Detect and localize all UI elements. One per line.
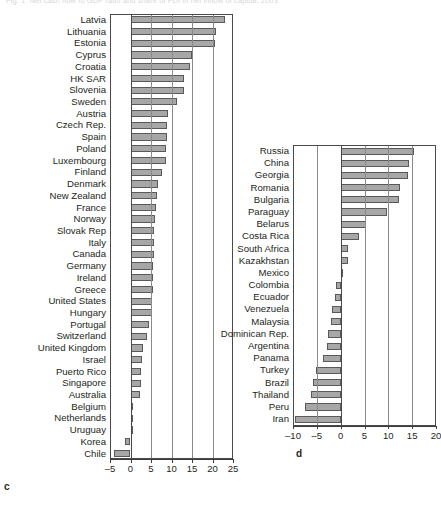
bar-track <box>110 14 233 26</box>
bar <box>305 403 340 410</box>
bar <box>131 321 149 328</box>
bar <box>336 282 340 289</box>
bar-row: Bulgaria <box>218 194 436 206</box>
bar-row: Panama <box>218 352 436 364</box>
bar-track <box>293 364 436 376</box>
axis-tick <box>341 426 342 429</box>
category-label: Lithuania <box>0 26 110 38</box>
bar <box>131 286 153 293</box>
bar-row: New Zealand <box>0 190 233 202</box>
bar <box>131 110 168 117</box>
bar-track <box>110 330 233 342</box>
bar <box>131 204 156 211</box>
bar <box>341 221 367 228</box>
bar-track <box>293 389 436 401</box>
bar-row: Paraguay <box>218 206 436 218</box>
category-label: Ecuador <box>218 291 293 303</box>
bar <box>131 28 216 35</box>
category-label: Georgia <box>218 169 293 181</box>
bar <box>323 355 341 362</box>
bar-row: Denmark <box>0 178 233 190</box>
category-label: Australia <box>0 389 110 401</box>
bar-row: Thailand <box>218 389 436 401</box>
bar-track <box>110 366 233 378</box>
bar <box>327 343 341 350</box>
bar-track <box>110 26 233 38</box>
category-label: United Kingdom <box>0 342 110 354</box>
bar <box>131 192 158 199</box>
bar-track <box>110 131 233 143</box>
category-label: Chile <box>0 448 110 460</box>
chart-panel-c: LatviaLithuaniaEstoniaCyprusCroatiaHK SA… <box>0 14 236 494</box>
bar-row: Argentina <box>218 340 436 352</box>
panel-c-bar-rows: LatviaLithuaniaEstoniaCyprusCroatiaHK SA… <box>0 14 233 459</box>
axis-tick-label: 0 <box>338 430 343 441</box>
category-label: Spain <box>0 131 110 143</box>
bar-track <box>110 73 233 85</box>
bar <box>131 16 225 23</box>
bar <box>341 160 409 167</box>
axis-tick-label: 0 <box>128 463 133 474</box>
bar-track <box>110 202 233 214</box>
category-label: Germany <box>0 260 110 272</box>
category-label: Colombia <box>218 279 293 291</box>
bar-row: Costa Rica <box>218 230 436 242</box>
bar-track <box>293 218 436 230</box>
bar-track <box>110 61 233 73</box>
bar-row: Dominican Rep. <box>218 328 436 340</box>
bar-row: Ecuador <box>218 291 436 303</box>
bar-row: China <box>218 157 436 169</box>
category-label: Denmark <box>0 178 110 190</box>
axis-tick <box>213 459 214 462</box>
axis-tick-label: 20 <box>207 463 218 474</box>
bar <box>125 438 131 445</box>
category-label: Peru <box>218 401 293 413</box>
bar-track <box>110 108 233 120</box>
bar <box>341 196 400 203</box>
bar <box>341 184 401 191</box>
bar-row: United States <box>0 295 233 307</box>
bar <box>131 122 168 129</box>
category-label: China <box>218 157 293 169</box>
bar <box>328 330 340 337</box>
bar <box>131 51 192 58</box>
bar-row: Estonia <box>0 37 233 49</box>
bar <box>131 98 177 105</box>
bar <box>131 333 148 340</box>
category-label: Austria <box>0 108 110 120</box>
category-label: Finland <box>0 166 110 178</box>
category-label: Poland <box>0 143 110 155</box>
bar-row: Finland <box>0 166 233 178</box>
bar-row: Mexico <box>218 267 436 279</box>
bar <box>341 148 414 155</box>
bar-track <box>293 243 436 255</box>
bar <box>131 180 158 187</box>
bar-row: Korea <box>0 436 233 448</box>
bar-track <box>293 267 436 279</box>
bar-row: Switzerland <box>0 330 233 342</box>
category-label: Czech Rep. <box>0 119 110 131</box>
bar-track <box>293 279 436 291</box>
bar-row: Croatia <box>0 61 233 73</box>
bar-row: Ireland <box>0 272 233 284</box>
category-label: Dominican Rep. <box>218 328 293 340</box>
axis-tick-label: 20 <box>431 430 441 441</box>
bar-row: Brazil <box>218 377 436 389</box>
bar <box>341 172 408 179</box>
bar-row: Malaysia <box>218 316 436 328</box>
bar-track <box>293 352 436 364</box>
bar-track <box>293 328 436 340</box>
bar-track <box>110 248 233 260</box>
category-label: Romania <box>218 182 293 194</box>
bar-track <box>110 166 233 178</box>
axis-tick <box>151 459 152 462</box>
bar-track <box>110 448 233 460</box>
axis-tick <box>192 459 193 462</box>
category-label: Norway <box>0 213 110 225</box>
bar <box>335 294 341 301</box>
category-label: Iran <box>218 413 293 425</box>
category-label: Mexico <box>218 267 293 279</box>
bar-track <box>110 377 233 389</box>
category-label: Malaysia <box>218 316 293 328</box>
cut-off-figure-caption: Fig. 1. Net cash flow to GDP ratio and s… <box>0 0 437 9</box>
